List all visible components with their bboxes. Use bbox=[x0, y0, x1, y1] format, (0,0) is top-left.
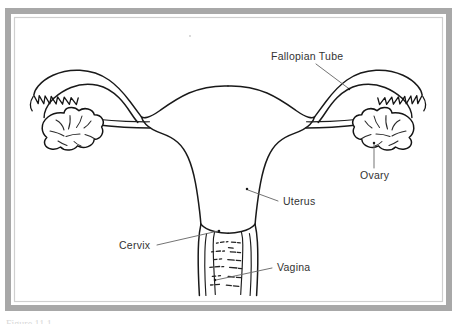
label-vagina: Vagina bbox=[277, 261, 310, 273]
leader-dot-uterus bbox=[246, 188, 249, 191]
leader-dot-fallopian-tube bbox=[348, 88, 351, 91]
scan-speck bbox=[189, 35, 191, 37]
leader-dot-cervix bbox=[218, 230, 221, 233]
leader-dot-ovary bbox=[373, 142, 376, 145]
anatomy-diagram: Fallopian Tube Ovary Uterus Cervix Vagin… bbox=[0, 0, 457, 324]
label-ovary: Ovary bbox=[360, 169, 390, 181]
label-uterus: Uterus bbox=[283, 195, 315, 207]
figure-caption-fragment: Figure 11.1 bbox=[6, 317, 52, 324]
label-fallopian-tube: Fallopian Tube bbox=[271, 50, 343, 62]
figure-container: Fallopian Tube Ovary Uterus Cervix Vagin… bbox=[0, 0, 457, 324]
leader-dot-vagina bbox=[214, 279, 217, 282]
figure-frame bbox=[8, 11, 449, 308]
label-cervix: Cervix bbox=[119, 239, 151, 251]
